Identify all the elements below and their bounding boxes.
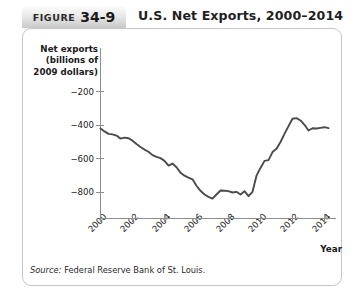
y-tick-label-minus400: −400 xyxy=(60,120,94,130)
figure-root: FIGURE 34-9 U.S. Net Exports, 2000–2014 … xyxy=(0,0,356,300)
source-text: Federal Reserve Bank of St. Louis. xyxy=(64,265,205,275)
figure-badge-word: FIGURE xyxy=(33,12,76,23)
y-tick-label-minus200: −200 xyxy=(60,87,94,97)
figure-title: U.S. Net Exports, 2000–2014 xyxy=(138,8,343,23)
y-tick-label-minus800: −800 xyxy=(60,187,94,197)
y-axis-title-line-1: Net exports xyxy=(26,44,98,55)
x-axis-title: Year xyxy=(320,244,342,254)
source-prefix: Source: xyxy=(30,265,61,275)
y-axis-title-line-3: 2009 dollars) xyxy=(26,67,98,78)
y-tick-label-minus600: −600 xyxy=(60,154,94,164)
y-axis-title-line-2: (billions of xyxy=(26,55,98,66)
figure-header: FIGURE 34-9 U.S. Net Exports, 2000–2014 xyxy=(22,6,344,30)
y-axis-title: Net exports (billions of 2009 dollars) xyxy=(26,44,98,78)
figure-badge: FIGURE 34-9 xyxy=(22,6,126,28)
figure-badge-number: 34-9 xyxy=(80,9,115,25)
source-note: Source: Federal Reserve Bank of St. Loui… xyxy=(30,265,205,275)
